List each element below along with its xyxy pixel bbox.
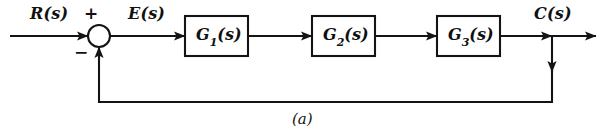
label-output-signal: C(s) [534, 6, 572, 22]
block-G3-label-arg: (s) [469, 25, 493, 44]
block-G1-label: G1(s) [196, 27, 241, 46]
block-diagram-figure: R(s) + − E(s) G1(s) G2(s) G3(s) C(s) (a) [0, 0, 608, 140]
label-input-signal: R(s) [30, 6, 68, 22]
block-G3-label-subscript: 3 [462, 36, 470, 49]
summing-junction-plus-sign: + [84, 5, 98, 22]
block-G2-label-arg: (s) [344, 25, 368, 44]
summing-junction-minus-sign: − [74, 44, 88, 61]
block-G2-label: G2(s) [323, 27, 368, 46]
figure-caption: (a) [292, 112, 313, 127]
block-G2-label-subscript: 2 [337, 36, 345, 49]
block-G1-label-arg: (s) [217, 25, 241, 44]
block-G3-label-base: G [448, 25, 462, 44]
block-G2-label-base: G [323, 25, 337, 44]
block-G1-label-subscript: 1 [210, 36, 218, 49]
block-G3-label: G3(s) [448, 27, 493, 46]
block-G1-label-base: G [196, 25, 210, 44]
summing-junction-circle [88, 25, 110, 47]
label-error-signal: E(s) [128, 6, 165, 22]
